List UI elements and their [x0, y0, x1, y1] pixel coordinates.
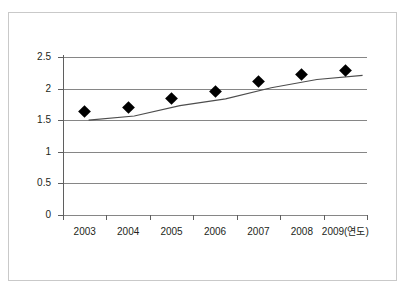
y-axis-label: 1: [17, 147, 51, 157]
y-axis-label: 1.5: [17, 115, 51, 125]
series-line: [9, 13, 409, 293]
x-axis-tick: [237, 215, 238, 220]
y-axis-tick: [58, 89, 63, 90]
y-axis-line: [63, 55, 64, 218]
gridline: [63, 152, 367, 153]
chart-figure: 00.511.522.5 200320042005200620072008200…: [0, 0, 409, 293]
x-axis-tick: [150, 215, 151, 220]
x-axis-tick: [324, 215, 325, 220]
x-axis-tick: [106, 215, 107, 220]
y-axis-tick: [58, 120, 63, 121]
y-axis-label: 0: [17, 210, 51, 220]
gridline: [63, 215, 367, 216]
data-point-marker: [122, 101, 135, 114]
data-point-marker: [339, 64, 352, 77]
data-point-marker: [209, 85, 222, 98]
data-point-marker: [252, 75, 265, 88]
y-axis-label: 2: [17, 84, 51, 94]
y-axis-tick: [58, 183, 63, 184]
data-point-marker: [295, 68, 308, 81]
y-axis-label: 0.5: [17, 178, 51, 188]
x-axis-tick: [367, 215, 368, 220]
gridline: [63, 57, 367, 58]
y-axis-tick: [58, 152, 63, 153]
y-axis-tick: [58, 57, 63, 58]
data-point-marker: [78, 105, 91, 118]
x-axis-tick: [63, 215, 64, 220]
gridline: [63, 183, 367, 184]
x-axis-tick: [193, 215, 194, 220]
data-point-marker: [165, 92, 178, 105]
y-axis-label: 2.5: [17, 52, 51, 62]
chart-border: 00.511.522.5 200320042005200620072008200…: [8, 12, 397, 281]
x-axis-label: 2009(연도): [305, 226, 385, 237]
gridline: [63, 120, 367, 121]
x-axis-tick: [280, 215, 281, 220]
